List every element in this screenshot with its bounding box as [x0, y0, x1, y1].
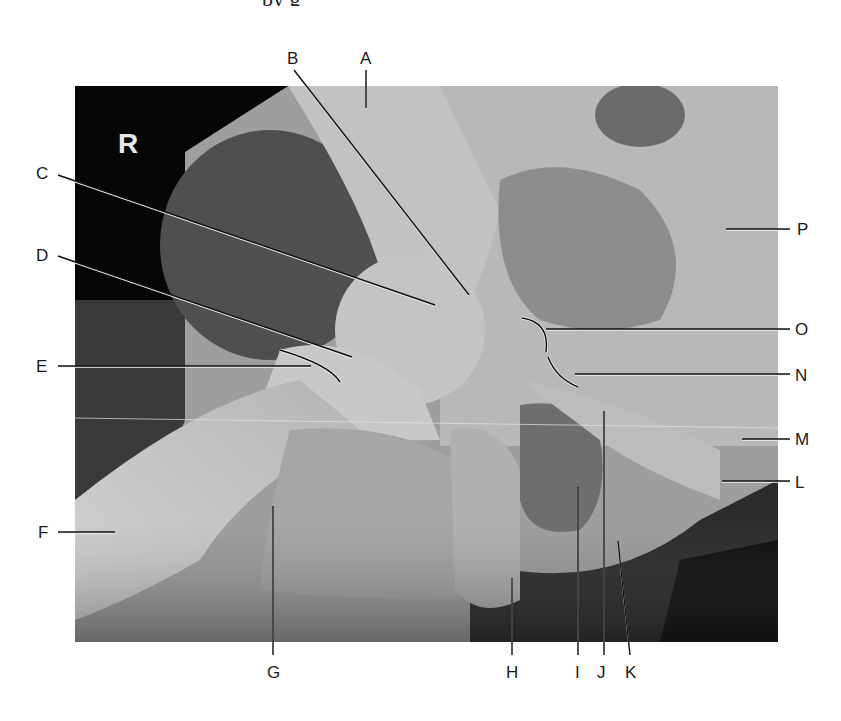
label-c: C [36, 165, 48, 182]
label-f: F [38, 524, 48, 541]
leader-line-k [618, 541, 630, 655]
leader-line-d [58, 256, 352, 357]
label-k: K [625, 664, 636, 681]
leader-lines [0, 0, 841, 721]
hip-radiograph-figure: by g [0, 0, 841, 721]
leader-line-c [58, 175, 435, 305]
label-l: L [795, 474, 804, 491]
label-o: O [795, 321, 808, 338]
curved-marker-n [548, 357, 578, 387]
label-m: M [795, 431, 809, 448]
label-a: A [360, 50, 371, 67]
label-b: B [287, 50, 298, 67]
leader-line-b [294, 70, 469, 295]
label-d: D [36, 247, 48, 264]
label-g: G [267, 664, 280, 681]
label-i: I [575, 664, 580, 681]
label-j: J [597, 664, 606, 681]
label-n: N [795, 367, 807, 384]
label-e: E [36, 358, 47, 375]
label-p: P [797, 221, 808, 238]
label-h: H [506, 664, 518, 681]
